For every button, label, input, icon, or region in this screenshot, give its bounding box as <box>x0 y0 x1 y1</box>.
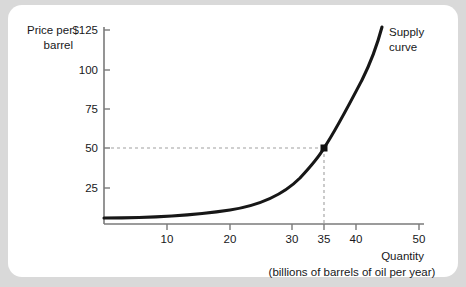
x-axis-title: Quantity <box>381 250 424 262</box>
x-tick-label-30: 30 <box>286 233 299 245</box>
equilibrium-point-marker <box>321 145 328 152</box>
y-tick-label-50: 50 <box>85 142 98 154</box>
supply-curve-chart: $125 100 75 50 25 10 20 30 35 40 50 Pric… <box>0 0 466 287</box>
x-tick-label-35: 35 <box>318 233 331 245</box>
y-tick-label-125: $125 <box>72 24 98 36</box>
x-tick-label-20: 20 <box>224 233 237 245</box>
x-axis-subtitle: (billions of barrels of oil per year) <box>269 266 436 278</box>
series-label-line2: curve <box>389 41 417 53</box>
y-axis-title-line2: barrel <box>44 39 73 51</box>
x-tick-label-40: 40 <box>350 233 363 245</box>
x-tick-label-50: 50 <box>413 233 426 245</box>
x-tick-label-10: 10 <box>161 233 174 245</box>
screenshot-canvas: $125 100 75 50 25 10 20 30 35 40 50 Pric… <box>0 0 466 287</box>
y-axis-ticks <box>104 30 110 188</box>
x-axis-ticks <box>167 224 419 230</box>
series-label-line1: Supply <box>389 26 424 38</box>
y-tick-label-100: 100 <box>79 64 98 76</box>
y-tick-label-25: 25 <box>85 182 98 194</box>
y-tick-label-75: 75 <box>85 103 98 115</box>
y-axis-title-line1: Price per <box>27 24 73 36</box>
supply-curve-line <box>104 27 382 218</box>
